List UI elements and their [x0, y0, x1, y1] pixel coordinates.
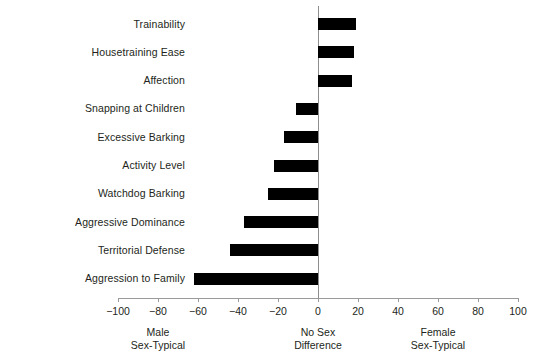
bar: [274, 160, 318, 172]
x-axis-tick-label: 20: [352, 305, 364, 317]
x-axis-tick-label: 40: [392, 305, 404, 317]
bar: [284, 131, 318, 143]
x-axis-tick-label: 80: [472, 305, 484, 317]
zone-annotation-line2: Difference: [294, 339, 342, 352]
x-axis-tick: [438, 298, 439, 302]
zone-annotation: No SexDifference: [294, 326, 342, 351]
x-axis-tick-label: −100: [106, 305, 130, 317]
bar: [296, 103, 318, 115]
x-axis-tick-label: −60: [189, 305, 207, 317]
x-axis-tick-label: 100: [509, 305, 527, 317]
x-axis-tick-label: 60: [432, 305, 444, 317]
bar: [230, 244, 318, 256]
bar: [318, 75, 352, 87]
zone-annotation-line1: No Sex: [301, 326, 335, 338]
zone-annotation: FemaleSex-Typical: [411, 326, 465, 351]
zone-annotation-line2: Sex-Typical: [131, 339, 185, 352]
x-axis-tick: [158, 298, 159, 302]
x-axis-tick-label: −40: [229, 305, 247, 317]
x-axis-tick: [318, 298, 319, 302]
plot-area: [118, 6, 518, 298]
zone-annotation-line1: Male: [147, 326, 170, 338]
x-axis-tick-label: −20: [269, 305, 287, 317]
x-axis-tick: [238, 298, 239, 302]
bar: [318, 46, 354, 58]
bar: [268, 188, 318, 200]
zone-annotation: MaleSex-Typical: [131, 326, 185, 351]
sex-difference-bar-chart: TrainabilityHousetraining EaseAffectionS…: [0, 0, 536, 362]
x-axis-tick-label: −80: [149, 305, 167, 317]
x-axis-tick: [118, 298, 119, 302]
zone-annotation-line2: Sex-Typical: [411, 339, 465, 352]
bar: [318, 18, 356, 30]
x-axis-tick: [358, 298, 359, 302]
bar: [244, 216, 318, 228]
x-axis-tick: [278, 298, 279, 302]
x-axis-tick: [478, 298, 479, 302]
x-axis-tick: [518, 298, 519, 302]
x-axis-tick: [398, 298, 399, 302]
x-axis-tick: [198, 298, 199, 302]
bar: [194, 273, 318, 285]
zone-annotation-line1: Female: [420, 326, 455, 338]
x-axis-tick-label: 0: [315, 305, 321, 317]
